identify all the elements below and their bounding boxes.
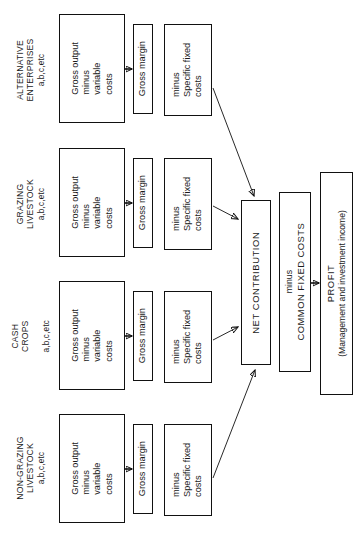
group-name-label: CASHCROPS xyxy=(10,320,30,352)
gross-margin-box-non-grazing-livestock: Gross margin xyxy=(133,424,153,514)
group-caption-cash-crops: CASHCROPS a,b,c,etc xyxy=(6,272,56,400)
group-sub-label: a,b,c,etc xyxy=(37,188,46,221)
gross-output-text: Gross outputminusvariablecosts xyxy=(60,282,124,389)
group-caption-text: CASHCROPS a,b,c,etc xyxy=(6,272,56,400)
group-caption-alternative-enterprises: ALTERNATIVEENTERPRISES a,b,c,etc xyxy=(6,6,56,134)
gross-output-box-non-grazing-livestock: Gross outputminusvariablecosts xyxy=(59,414,125,523)
specific-fixed-costs-box-alternative-enterprises: minusSpecific fixedcosts xyxy=(164,24,212,116)
gross-margin-label: Gross margin xyxy=(137,41,148,96)
flow-diagram: ALTERNATIVEENTERPRISES a,b,c,etc Gross o… xyxy=(0,0,359,538)
gross-output-label: Gross outputminusvariablecosts xyxy=(70,442,115,495)
common-fixed-costs-minus-label: minus xyxy=(284,270,294,293)
profit-sub-label: (Management and investment income) xyxy=(337,210,347,357)
gross-margin-text: Gross margin xyxy=(134,25,152,113)
group-sub-label: a,b,c,etc xyxy=(42,320,51,353)
gross-margin-text: Gross margin xyxy=(134,425,152,513)
gross-margin-label: Gross margin xyxy=(137,441,148,496)
specific-fixed-costs-label: minusSpecific fixedcosts xyxy=(171,443,205,497)
gross-output-label: Gross outputminusvariablecosts xyxy=(70,309,115,362)
gross-margin-box-alternative-enterprises: Gross margin xyxy=(133,24,153,114)
gross-output-text: Gross outputminusvariablecosts xyxy=(60,15,124,122)
specific-fixed-costs-label: minusSpecific fixedcosts xyxy=(171,310,205,364)
arrow-specific-fixed-3-to-net-contribution xyxy=(213,327,238,340)
specific-fixed-costs-text: minusSpecific fixedcosts xyxy=(165,425,211,515)
common-fixed-costs-label: COMMON FIXED COSTS xyxy=(295,223,306,341)
net-contribution-text: NET CONTRIBUTION xyxy=(242,201,270,364)
gross-margin-label: Gross margin xyxy=(137,175,148,230)
group-caption-text: NON-GRAZINGLIVESTOCK a,b,c,etc xyxy=(6,404,56,532)
group-name-label: GRAZINGLIVESTOCK xyxy=(15,179,35,229)
net-contribution-label: NET CONTRIBUTION xyxy=(250,231,261,333)
common-fixed-costs-text: minus COMMON FIXED COSTS xyxy=(280,193,310,371)
net-contribution-box: NET CONTRIBUTION xyxy=(241,200,271,365)
gross-output-label: Gross outputminusvariablecosts xyxy=(70,42,115,95)
arrow-specific-fixed-1-to-net-contribution xyxy=(213,88,254,196)
group-caption-non-grazing-livestock: NON-GRAZINGLIVESTOCK a,b,c,etc xyxy=(6,404,56,532)
group-sub-label: a,b,c,etc xyxy=(37,54,46,87)
specific-fixed-costs-text: minusSpecific fixedcosts xyxy=(165,159,211,249)
gross-output-box-grazing-livestock: Gross outputminusvariablecosts xyxy=(59,148,125,257)
specific-fixed-costs-box-grazing-livestock: minusSpecific fixedcosts xyxy=(164,158,212,250)
gross-output-text: Gross outputminusvariablecosts xyxy=(60,149,124,256)
specific-fixed-costs-box-cash-crops: minusSpecific fixedcosts xyxy=(164,291,212,383)
gross-margin-box-cash-crops: Gross margin xyxy=(133,291,153,381)
group-name-label: NON-GRAZINGLIVESTOCK xyxy=(15,436,35,499)
gross-output-text: Gross outputminusvariablecosts xyxy=(60,415,124,522)
gross-output-box-alternative-enterprises: Gross outputminusvariablecosts xyxy=(59,14,125,123)
group-caption-text: ALTERNATIVEENTERPRISES a,b,c,etc xyxy=(6,6,56,134)
profit-label: PROFIT xyxy=(325,265,336,302)
specific-fixed-costs-text: minusSpecific fixedcosts xyxy=(165,25,211,115)
specific-fixed-costs-label: minusSpecific fixedcosts xyxy=(171,177,205,231)
group-caption-text: GRAZINGLIVESTOCK a,b,c,etc xyxy=(6,140,56,268)
gross-margin-box-grazing-livestock: Gross margin xyxy=(133,158,153,248)
specific-fixed-costs-label: minusSpecific fixedcosts xyxy=(171,43,205,97)
common-fixed-costs-box: minus COMMON FIXED COSTS xyxy=(279,192,311,372)
group-caption-grazing-livestock: GRAZINGLIVESTOCK a,b,c,etc xyxy=(6,140,56,268)
arrow-specific-fixed-2-to-net-contribution xyxy=(213,206,238,219)
profit-text: PROFIT (Management and investment income… xyxy=(321,173,352,394)
specific-fixed-costs-text: minusSpecific fixedcosts xyxy=(165,292,211,382)
arrow-specific-fixed-4-to-net-contribution xyxy=(213,370,255,478)
group-name-label: ALTERNATIVEENTERPRISES xyxy=(15,39,35,102)
gross-output-label: Gross outputminusvariablecosts xyxy=(70,176,115,229)
group-sub-label: a,b,c,etc xyxy=(37,452,46,485)
gross-margin-label: Gross margin xyxy=(137,308,148,363)
profit-box: PROFIT (Management and investment income… xyxy=(320,172,353,395)
gross-margin-text: Gross margin xyxy=(134,159,152,247)
gross-output-box-cash-crops: Gross outputminusvariablecosts xyxy=(59,281,125,390)
gross-margin-text: Gross margin xyxy=(134,292,152,380)
specific-fixed-costs-box-non-grazing-livestock: minusSpecific fixedcosts xyxy=(164,424,212,516)
